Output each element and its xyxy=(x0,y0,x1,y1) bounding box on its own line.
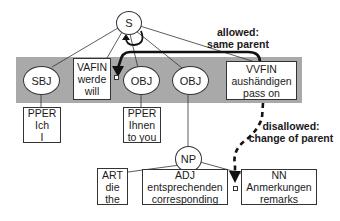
pper-word: Ich xyxy=(35,119,49,131)
node-art: ART die the xyxy=(97,168,128,205)
allowed-label-line2: same parent xyxy=(198,38,278,50)
vvfin-gloss: pass on xyxy=(243,87,280,99)
vafin-gloss: will xyxy=(85,85,100,97)
disallowed-label-line1: disallowed: xyxy=(243,120,339,132)
node-obj-1: OBJ xyxy=(123,66,160,95)
pper-gloss: to you xyxy=(128,131,157,143)
node-vafin: VAFIN werde will xyxy=(73,58,111,100)
node-adj: ADJ entsprechenden corresponding xyxy=(142,169,228,205)
allowed-label: allowed: same parent xyxy=(198,26,278,50)
pper-gloss: I xyxy=(41,131,44,143)
art-tag: ART xyxy=(102,169,123,181)
vafin-tag: VAFIN xyxy=(77,61,107,73)
art-gloss: the xyxy=(105,193,120,205)
pper-word: Ihnen xyxy=(129,119,155,131)
nn-word: Anmerkungen xyxy=(246,181,311,193)
node-nn: NN Anmerkungen remarks xyxy=(241,169,317,205)
vvfin-word: aushändigen xyxy=(231,75,291,87)
attachment-point-marker xyxy=(114,75,119,80)
adj-word: entsprechenden xyxy=(147,181,222,193)
adj-gloss: corresponding xyxy=(152,193,219,205)
nn-gloss: remarks xyxy=(260,193,298,205)
disallowed-label: disallowed: change of parent xyxy=(243,120,339,144)
adj-tag: ADJ xyxy=(175,169,195,181)
nn-tag: NN xyxy=(271,169,286,181)
allowed-label-line1: allowed: xyxy=(198,26,278,38)
node-obj-2: OBJ xyxy=(172,66,209,95)
disallowed-label-line2: change of parent xyxy=(243,132,339,144)
node-sbj: SBJ xyxy=(23,66,60,95)
pper-tag: PPER xyxy=(128,107,157,119)
node-vvfin: VVFIN aushändigen pass on xyxy=(226,61,297,100)
art-word: die xyxy=(105,181,119,193)
vvfin-tag: VVFIN xyxy=(246,63,277,75)
node-pper-ihnen: PPER Ihnen to you xyxy=(123,107,161,143)
attachment-point-marker xyxy=(233,186,238,191)
vafin-word: werde xyxy=(78,73,107,85)
pper-tag: PPER xyxy=(28,107,57,119)
node-pper-ich: PPER Ich I xyxy=(23,107,61,143)
node-s: S xyxy=(116,11,142,35)
